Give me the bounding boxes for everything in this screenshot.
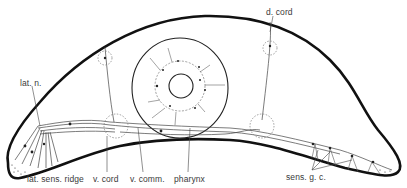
body-outline: [7, 16, 400, 178]
label-lat-sens-ridge: lat. sens. ridge: [27, 175, 84, 184]
diagram-canvas: lat. n. d. cord lat. sens. ridge v. cord…: [0, 0, 407, 188]
label-sens-g-c: sens. g. c.: [286, 173, 326, 182]
label-pharynx: pharynx: [174, 175, 205, 184]
ganglion-outlines: [98, 41, 277, 138]
label-lat-n: lat. n.: [20, 79, 42, 88]
flatworm-cross-section-drawing: [0, 0, 407, 188]
label-d-cord: d. cord: [266, 8, 293, 17]
label-v-cord: v. cord: [93, 175, 119, 184]
pharynx-section: [132, 38, 228, 138]
label-v-comm: v. comm.: [130, 175, 165, 184]
